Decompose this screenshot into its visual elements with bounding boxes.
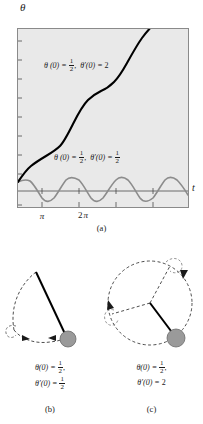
annotation-bottom-theta0-den: 2 xyxy=(79,158,85,166)
caption-a: (a) xyxy=(0,224,203,233)
panel-c-eq2-symbol: θ′(0) = xyxy=(137,378,159,387)
annotation-bottom-comma: , xyxy=(84,153,86,162)
panel-b-eq1-symbol: θ(0) = xyxy=(35,363,56,372)
panel-c-equation-2: θ′(0) = 2 xyxy=(100,376,203,390)
xtick-label-2pi: 2 π xyxy=(72,211,94,220)
panel-b-eq2-fraction: 1 2 xyxy=(59,376,65,392)
panel-c-eq1-symbol: θ(0) = xyxy=(136,363,157,372)
panel-c-eq2-value: 2 xyxy=(162,378,166,387)
arrowhead-right xyxy=(48,335,56,341)
panel-b-eq1-comma: , xyxy=(63,363,65,372)
dashed-loop-icon xyxy=(6,325,16,337)
dashed-swing-arc xyxy=(14,330,66,343)
panel-c-eq1-den: 2 xyxy=(159,368,165,376)
annotation-rotating-case: θ (0) = 1 2 , θ′(0) = 2 xyxy=(44,58,109,74)
annotation-bottom-thetaprime0-symbol: θ′(0) = xyxy=(90,153,112,162)
panel-b-oscillating-pendulum: θ(0) = 1 2 , θ′(0) = 1 2 (b) xyxy=(0,262,100,424)
panel-c-equations: θ(0) = 1 2 , θ′(0) = 2 xyxy=(100,360,203,390)
caption-b: (b) xyxy=(0,405,100,414)
annotation-bottom-thetaprime0-fraction: 1 2 xyxy=(115,150,121,166)
dashed-rod-upper xyxy=(150,266,170,303)
annotation-oscillating-case: θ (0) = 1 2 , θ′(0) = 1 2 xyxy=(54,150,120,166)
pendulum-bob xyxy=(167,329,185,347)
annotation-top-thetaprime0-symbol: θ′(0) = xyxy=(80,61,102,70)
annotation-top-theta0-den: 2 xyxy=(69,66,75,74)
pendulum-rod xyxy=(36,272,66,336)
panel-b-equation-2: θ′(0) = 1 2 xyxy=(0,376,100,392)
panel-b-equation-1: θ(0) = 1 2 , xyxy=(0,360,100,376)
dashed-rod-lower-left xyxy=(112,303,150,314)
annotation-top-thetaprime0-value: 2 xyxy=(105,61,109,70)
x-axis-label-t: t xyxy=(192,183,195,193)
curve-oscillating-gray xyxy=(18,177,188,201)
panel-b-eq2-den: 2 xyxy=(59,384,65,392)
annotation-top-theta0-fraction: 1 2 xyxy=(69,58,75,74)
panel-c-eq1-fraction: 1 2 xyxy=(159,360,165,376)
panel-c-eq1-comma: , xyxy=(165,363,167,372)
caption-c: (c) xyxy=(100,405,203,414)
pendulum-diagram-oscillating xyxy=(0,262,100,362)
x-axis-ticks-bottom xyxy=(42,202,153,207)
pendulum-rod xyxy=(150,303,174,335)
annotation-bottom-thetaprime0-den: 2 xyxy=(115,158,121,166)
panel-b-equations: θ(0) = 1 2 , θ′(0) = 1 2 xyxy=(0,360,100,392)
annotation-top-comma: , xyxy=(74,61,76,70)
panel-b-eq1-fraction: 1 2 xyxy=(58,360,64,376)
xtick-label-pi: π xyxy=(35,212,49,221)
panel-a-plot: θ xyxy=(0,0,203,236)
pendulum-diagram-rotating xyxy=(100,248,203,363)
xtick-2pi-symbol: π xyxy=(83,210,88,220)
dashed-loop-icon-lower xyxy=(105,310,118,326)
annotation-bottom-theta0-symbol: θ (0) = xyxy=(54,153,77,162)
panel-c-equation-1: θ(0) = 1 2 , xyxy=(100,360,203,376)
panel-c-rotating-pendulum: θ(0) = 1 2 , θ′(0) = 2 (c) xyxy=(100,248,203,424)
annotation-top-theta0-symbol: θ (0) = xyxy=(44,61,67,70)
plot-curves xyxy=(0,0,203,236)
dashed-rod-left xyxy=(13,272,36,330)
panel-b-eq2-symbol: θ′(0) = xyxy=(35,379,57,388)
pendulum-figure: θ xyxy=(0,0,203,424)
xtick-2pi-prefix: 2 xyxy=(78,210,83,220)
pendulum-bob xyxy=(60,331,76,347)
arrowhead-lower-left xyxy=(107,300,114,310)
annotation-bottom-theta0-fraction: 1 2 xyxy=(79,150,85,166)
